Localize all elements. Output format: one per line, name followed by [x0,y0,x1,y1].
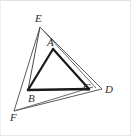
geometry-canvas [1,1,130,135]
vertex-label-e: E [35,13,42,24]
vertex-label-a: A [47,37,54,48]
vertex-label-d: D [105,84,113,95]
side-bc [28,89,89,90]
vertex-label-b: B [28,93,35,104]
vertex-label-f: F [10,112,17,123]
segment-f-to-e [14,27,40,111]
vertex-label-c: C [83,82,90,93]
geometry-figure: A B C D E F [0,0,131,136]
